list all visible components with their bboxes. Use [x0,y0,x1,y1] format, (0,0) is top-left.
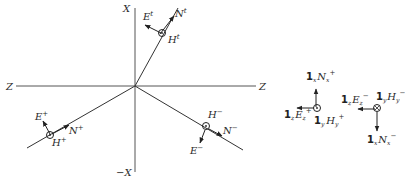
incident-H-dot-icon [49,134,51,136]
wave-vector-diagram: X −X Z Z Et Nt Ht E+ N+ H+ H− N− E− [0,0,405,180]
reflected-Ez-label: 1zEz− [341,92,369,106]
reflected-E-label: E− [189,144,203,156]
neg-x-axis-label: −X [116,167,132,178]
transmitted-N-arrow [160,16,174,34]
incident-N-label: N+ [68,124,84,136]
reflected-Hy-label: 1yHy− [376,89,405,104]
reflected-components: 1zEz− 1yHy− 1xNx− [341,89,405,146]
incident-Hy-dot-icon [316,107,318,109]
reflected-Nx-label: 1xNx− [367,132,397,146]
incident-Hy-label: 1yHy+ [314,113,344,128]
incident-H-label: H+ [51,136,67,148]
transmitted-H-dot-icon [161,32,163,34]
incident-components: 1xNx+ 1zEz+ 1yHy+ [284,69,344,128]
reflected-wave: H− N− E− [135,86,243,156]
reflected-H-label: H− [207,108,223,120]
reflected-ray [135,86,243,150]
reflected-N-label: N− [222,124,238,136]
transmitted-H-label: Ht [167,33,180,45]
incident-wave: E+ N+ H+ [27,86,135,148]
z-axis-label-right: Z [258,81,267,92]
incident-N-arrow [52,125,69,134]
incident-Ez-label: 1zEz+ [284,107,312,121]
reflected-H-dot-icon [205,125,207,127]
transmitted-wave: Et Nt Ht [135,7,187,86]
transmitted-N-label: Nt [174,7,187,19]
reflected-N-arrow [209,129,222,136]
reflected-E-arrow [200,130,205,143]
x-axis-label: X [122,3,131,14]
z-axis-label-left: Z [5,81,14,92]
transmitted-E-label: Et [142,10,153,22]
incident-Nx-label: 1xNx+ [306,69,336,83]
incident-E-label: E+ [34,110,48,122]
diagram-canvas: X −X Z Z Et Nt Ht E+ N+ H+ H− N− E− [0,0,405,180]
axes: X −X Z Z [5,3,267,178]
